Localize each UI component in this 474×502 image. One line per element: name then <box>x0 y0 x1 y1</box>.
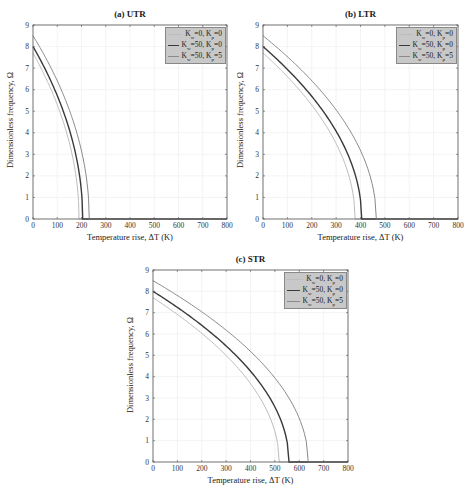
legend-label: Kw=50, Kp=0 <box>303 285 343 296</box>
x-tick-label: 300 <box>221 464 233 473</box>
legend-line-swatch <box>287 279 303 280</box>
legend-line-swatch <box>287 301 300 302</box>
legend-line-swatch <box>287 290 300 291</box>
y-axis-label: Dimensionless frequency, Ω <box>125 305 135 425</box>
x-tick-label: 0 <box>151 464 155 473</box>
y-tick-label: 1 <box>145 436 149 445</box>
x-tick-label: 600 <box>294 464 306 473</box>
x-axis-label: Temperature rise, ΔT (K) <box>153 475 348 485</box>
y-tick-label: 2 <box>145 415 149 424</box>
y-tick-label: 6 <box>145 330 149 339</box>
y-tick-label: 3 <box>145 394 149 403</box>
x-tick-label: 100 <box>172 464 184 473</box>
legend-label: Kw=0, Kp=0 <box>306 274 343 285</box>
chart-panel-str: (c) STR 01002003004005006007008000123456… <box>0 0 474 502</box>
x-tick-label: 800 <box>342 464 354 473</box>
legend-entry: Kw=50, Kp=0 <box>287 285 343 296</box>
y-tick-label: 9 <box>145 266 149 275</box>
legend: Kw=0, Kp=0Kw=50, Kp=0Kw=50, Kp=5 <box>284 272 347 309</box>
legend-entry: Kw=0, Kp=0 <box>287 274 343 285</box>
plot-area: 01002003004005006007008000123456789 <box>0 0 474 502</box>
y-tick-label: 0 <box>145 458 149 467</box>
x-tick-label: 700 <box>318 464 330 473</box>
y-tick-label: 7 <box>145 308 149 317</box>
x-tick-label: 200 <box>196 464 208 473</box>
x-tick-label: 500 <box>269 464 281 473</box>
y-tick-label: 8 <box>145 287 149 296</box>
y-tick-label: 5 <box>145 351 149 360</box>
y-tick-label: 4 <box>145 372 149 381</box>
legend-entry: Kw=50, Kp=5 <box>287 296 343 307</box>
x-tick-label: 400 <box>245 464 257 473</box>
legend-label: Kw=50, Kp=5 <box>303 296 343 307</box>
